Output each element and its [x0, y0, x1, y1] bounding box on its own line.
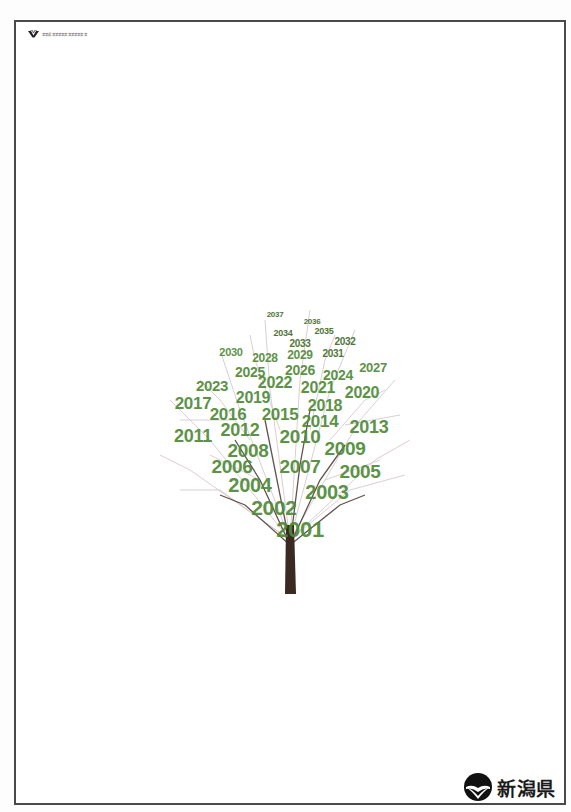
prefecture-brand: 新潟県 — [463, 772, 556, 802]
year-label: 2017 — [175, 395, 212, 412]
year-label: 2009 — [324, 439, 365, 458]
year-label: 2004 — [228, 475, 271, 495]
year-tree-illustration: 2037203620342035203320322030202820292031… — [150, 290, 420, 600]
prefecture-name: 新潟県 — [497, 774, 556, 801]
year-label: 2023 — [196, 378, 228, 393]
year-label: 2002 — [251, 497, 297, 518]
year-label: 2031 — [322, 349, 343, 359]
year-label: 2028 — [252, 352, 278, 364]
year-label: 2003 — [305, 482, 348, 502]
org-name: 某某県某某某某某某某某某某某 — [42, 32, 87, 37]
year-label: 2020 — [345, 385, 379, 401]
year-label: 2035 — [315, 327, 334, 336]
year-label: 2034 — [274, 329, 293, 338]
year-label: 2029 — [287, 349, 313, 361]
year-label: 2027 — [359, 361, 387, 374]
year-label: 2021 — [301, 380, 335, 396]
year-label: 2005 — [339, 462, 380, 481]
year-label: 2030 — [219, 347, 242, 358]
year-label: 2007 — [279, 457, 320, 476]
org-logo: 某某県某某某某某某某某某某某 — [28, 30, 87, 38]
year-label: 2037 — [267, 311, 284, 319]
niigata-org-v-mark-icon — [28, 30, 39, 38]
year-label: 2006 — [211, 457, 252, 476]
niigata-prefecture-emblem-icon — [463, 772, 493, 802]
year-label: 2011 — [174, 427, 212, 445]
year-label: 2012 — [221, 421, 260, 439]
year-label: 2015 — [262, 406, 299, 423]
year-label: 2010 — [279, 427, 320, 446]
year-label: 2001 — [276, 519, 324, 541]
year-label: 2032 — [334, 337, 355, 347]
year-label: 2013 — [350, 418, 389, 436]
